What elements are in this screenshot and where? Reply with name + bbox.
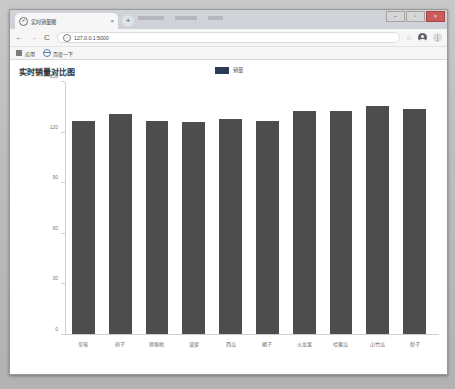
x-axis-labels: 草莓柿子猕猴桃菠萝西瓜橘子火龙果哈蜜瓜山竹瓜梨子 [65, 340, 433, 350]
x-axis-label: 火龙果 [286, 340, 323, 350]
x-axis-label: 山竹瓜 [359, 340, 396, 350]
bar[interactable] [403, 109, 426, 334]
plot-area: 0306090120150 [65, 82, 433, 335]
bar[interactable] [109, 114, 132, 334]
window-minimize-button[interactable]: – [386, 11, 405, 22]
bar-slot [65, 82, 102, 334]
x-axis-label: 菠萝 [175, 340, 212, 350]
y-axis-label: 30 [52, 275, 58, 281]
browser-window: 实时销量图 × + – ▫ × ← → C i 127.0.0.1:5000 [9, 9, 448, 375]
x-axis-label: 西瓜 [212, 340, 249, 350]
bar[interactable] [293, 111, 316, 334]
bar[interactable] [256, 121, 279, 334]
x-axis-label: 猕猴桃 [139, 340, 176, 350]
bookmark-item-apps[interactable]: 应用 [16, 50, 35, 57]
bar[interactable] [366, 106, 389, 334]
x-axis-label: 柿子 [102, 340, 139, 350]
bookmark-item-baidu[interactable]: 百度一下 [43, 49, 74, 57]
window-close-button[interactable]: × [426, 11, 445, 22]
site-info-icon[interactable]: i [63, 34, 71, 42]
page-viewport: 实时销量对比图 销量 0306090120150 草莓柿子猕猴桃菠萝西瓜橘子火龙… [10, 60, 447, 374]
bar-slot [359, 82, 396, 334]
browser-menu-icon[interactable] [433, 33, 442, 42]
bookmark-label: 百度一下 [53, 50, 73, 57]
x-axis-label: 橘子 [249, 340, 286, 350]
bar[interactable] [330, 111, 353, 334]
bar-slot [323, 82, 360, 334]
browser-toolbar: ← → C i 127.0.0.1:5000 ☆ [10, 29, 447, 47]
bar-slot [212, 82, 249, 334]
new-tab-button[interactable]: + [122, 15, 134, 27]
window-controls: – ▫ × [386, 11, 445, 22]
y-axis-label: 150 [50, 73, 58, 79]
profile-avatar-icon[interactable] [418, 33, 427, 42]
x-axis-label: 哈蜜瓜 [323, 340, 360, 350]
bar-slot [102, 82, 139, 334]
address-bar[interactable]: i 127.0.0.1:5000 [57, 32, 400, 43]
y-axis-tick [61, 334, 65, 335]
y-axis-label: 120 [50, 124, 58, 130]
background-tabs-blurred [138, 16, 223, 20]
bar[interactable] [219, 119, 242, 334]
bar[interactable] [182, 122, 205, 334]
x-axis-label: 草莓 [65, 340, 102, 350]
tab-title: 实时销量图 [31, 18, 108, 25]
y-axis-label: 90 [52, 174, 58, 180]
bookmarks-bar: 应用 百度一下 [10, 47, 447, 60]
bar[interactable] [72, 121, 95, 334]
globe-icon [43, 49, 51, 57]
address-bar-url: 127.0.0.1:5000 [74, 35, 109, 41]
browser-tab-active[interactable]: 实时销量图 × [15, 13, 118, 29]
bar-slot [396, 82, 433, 334]
apps-grid-icon [16, 50, 22, 56]
screenshot-root: 实时销量图 × + – ▫ × ← → C i 127.0.0.1:5000 [0, 0, 455, 389]
bar-slot [175, 82, 212, 334]
tab-strip: 实时销量图 × + – ▫ × [10, 10, 447, 29]
bar-slot [249, 82, 286, 334]
y-axis-label: 60 [52, 225, 58, 231]
bar-slot [139, 82, 176, 334]
bar-slot [286, 82, 323, 334]
bookmark-star-icon[interactable]: ☆ [406, 34, 412, 41]
bar-series [65, 82, 433, 334]
tab-favicon-icon [19, 17, 28, 26]
tab-close-icon[interactable]: × [108, 18, 114, 24]
back-icon[interactable]: ← [15, 34, 23, 42]
bookmark-label: 应用 [25, 50, 35, 57]
bar[interactable] [146, 121, 169, 334]
y-axis-label: 0 [55, 326, 58, 332]
x-axis-label: 梨子 [396, 340, 433, 350]
window-maximize-button[interactable]: ▫ [406, 11, 425, 22]
forward-icon[interactable]: → [29, 34, 37, 42]
x-axis [65, 334, 439, 335]
bar-chart: 0306090120150 草莓柿子猕猴桃菠萝西瓜橘子火龙果哈蜜瓜山竹瓜梨子 [10, 60, 447, 374]
reload-icon[interactable]: C [43, 34, 51, 42]
toolbar-icons: ☆ [406, 33, 442, 42]
